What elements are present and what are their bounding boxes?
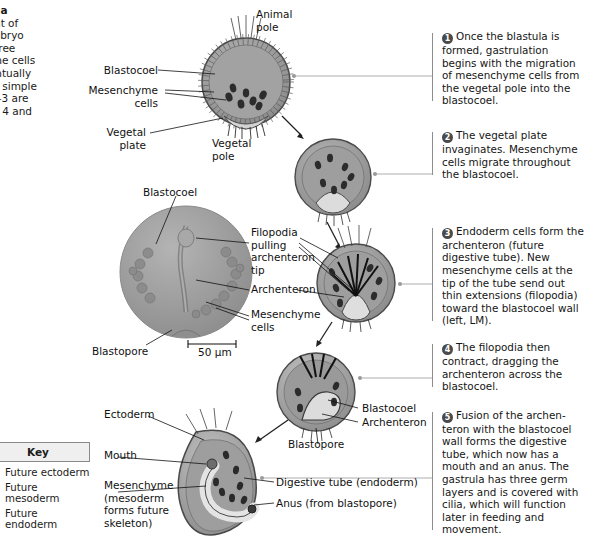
step-4: 4The filopodia then contract, dragging t… — [432, 341, 590, 393]
step-rule — [432, 228, 433, 321]
steps-column: 1Once the blastula is formed, gastrulati… — [432, 30, 590, 542]
flow-arrow-4-5 — [258, 420, 288, 441]
intro-line-1: ms an embryo — [0, 29, 98, 42]
key-title: Key — [0, 442, 90, 462]
label-vegetal-pole: Vegetal pole — [212, 137, 251, 162]
step-number-2: 2 — [442, 132, 453, 143]
label-vegetal-plate: Vegetal plate — [50, 126, 146, 151]
step-number-4: 4 — [442, 344, 453, 355]
arrowhead-3-4 — [316, 340, 322, 347]
flow-arrow-1-2 — [282, 116, 302, 136]
key-label-ectoderm: Future ectoderm — [5, 467, 89, 478]
label-mesenchyme-cells-micrograph: Mesenchyme cells — [251, 308, 320, 333]
label-archenteron-micrograph: Archenteron — [251, 283, 316, 296]
step-number-5: 5 — [442, 412, 453, 423]
step-1: 1Once the blastula is formed, gastrulati… — [432, 30, 590, 107]
label-scale-bar-value: 50 µm — [198, 346, 232, 359]
step-5: 5Fusion of the archen-teron with the bla… — [432, 409, 590, 536]
label-blastocoel-stage1: Blastocoel — [58, 64, 158, 77]
arrowhead-1-2 — [297, 133, 304, 139]
leader-dot-1 — [292, 74, 296, 78]
label-mesenchyme-cells-stage1: Mesenchyme cells — [48, 84, 158, 109]
embryo-stage-3 — [317, 225, 395, 332]
key-label-mesoderm: Future mesoderm — [5, 482, 90, 504]
label-blastocoel-micrograph: Blastocoel — [143, 186, 197, 199]
step-2: 2The vegetal plate invaginates. Mesenchy… — [432, 129, 590, 181]
label-animal-pole: Animal pole — [256, 8, 292, 33]
step-rule — [432, 344, 433, 387]
step-text-2: The vegetal plate invaginates. Mesenchym… — [442, 129, 578, 180]
step-text-1: Once the blastula is formed, gastrulatio… — [442, 30, 579, 106]
arrowhead-4-5 — [255, 436, 262, 443]
step-number-1: 1 — [442, 33, 453, 44]
label-filopodia: Filopodia pulling archenteron tip — [251, 226, 315, 276]
step-rule — [432, 412, 433, 530]
embryo-stage-5 — [178, 408, 256, 535]
intro-line-2: be and three — [0, 42, 98, 55]
key-item-future-ectoderm: Future ectoderm — [0, 466, 90, 478]
step-3: 3Endoderm cells form the archenteron (fu… — [432, 225, 590, 327]
key-label-endoderm: Future endoderm — [5, 508, 90, 530]
leader-dot-2 — [373, 172, 377, 176]
key-item-future-endoderm: Future endoderm — [0, 508, 90, 530]
label-digestive-tube: Digestive tube (endoderm) — [276, 476, 418, 489]
figure-title-fragment: lation in a — [0, 4, 98, 17]
step-rule — [432, 33, 433, 101]
embryo-stage-4 — [277, 353, 355, 441]
label-blastopore-micrograph: Blastopore — [92, 345, 148, 358]
intro-line-0: movement of — [0, 17, 98, 30]
label-archenteron-stage4: Archenteron — [362, 416, 427, 429]
step-text-5: Fusion of the archen-teron with the blas… — [442, 409, 578, 536]
embryo-stage-2 — [295, 139, 371, 226]
label-ectoderm: Ectoderm — [104, 408, 154, 421]
label-blastocoel-stage4: Blastocoel — [362, 402, 416, 415]
step-number-3: 3 — [442, 228, 453, 239]
label-mouth: Mouth — [104, 449, 137, 462]
step-text-3: Endoderm cells form the archenteron (fut… — [442, 225, 584, 327]
flow-arrow-2-3 — [327, 222, 340, 247]
step-text-4: The filopodia then contract, dragging th… — [442, 341, 562, 392]
leader-dot-5 — [260, 476, 264, 480]
micrograph-lm — [120, 206, 252, 338]
label-blastopore-stage4: Blastopore — [288, 438, 344, 451]
step-rule — [432, 132, 433, 175]
label-anus: Anus (from blastopore) — [276, 497, 397, 510]
label-mesenchyme-gastrula: Mesenchyme (mesoderm forms future skelet… — [104, 479, 173, 529]
key-item-future-mesoderm: Future mesoderm — [0, 482, 90, 504]
leader-dot-3 — [398, 282, 402, 286]
key-legend: Key Future ectoderm Future mesoderm Futu… — [0, 442, 90, 530]
leader-dot-4 — [358, 376, 362, 380]
